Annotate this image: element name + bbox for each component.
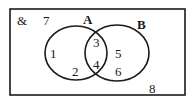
- set-a-label: A: [83, 12, 93, 27]
- region-label-3: 3: [93, 35, 100, 50]
- region-label-4: 4: [93, 57, 100, 72]
- universal-set-rectangle: [10, 9, 185, 95]
- universal-set-symbol: &: [17, 13, 27, 28]
- set-b-label: B: [137, 17, 146, 32]
- region-label-6: 6: [115, 64, 122, 79]
- region-label-1: 1: [50, 46, 57, 61]
- region-label-7: 7: [43, 13, 50, 28]
- region-label-8: 8: [149, 81, 156, 96]
- region-label-5: 5: [115, 46, 122, 61]
- region-label-2: 2: [72, 64, 79, 79]
- venn-diagram: & 7 A B 1 2 3 4 5 6 8: [0, 0, 194, 103]
